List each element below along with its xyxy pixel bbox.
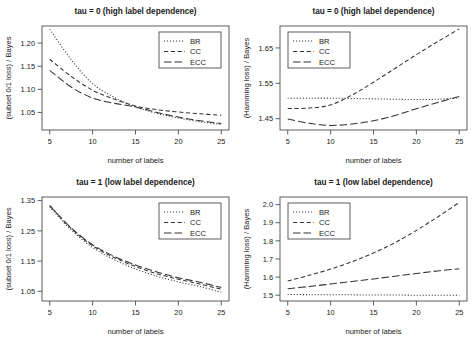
y-axis-tick-label: 1.45 xyxy=(259,114,273,123)
x-axis-tick-label: 15 xyxy=(369,137,377,146)
legend-label-ecc: ECC xyxy=(319,229,336,238)
x-axis-tick-label: 20 xyxy=(412,308,420,317)
legend-label-ecc: ECC xyxy=(319,58,336,67)
x-axis-title: number of labels xyxy=(107,156,163,165)
y-axis-tick-label: 1.7 xyxy=(263,255,273,264)
legend-label-br: BR xyxy=(319,37,330,46)
x-axis-tick-label: 10 xyxy=(88,137,96,146)
chart-panel-bottom-left: tau = 1 (low label dependence)5101520251… xyxy=(0,171,237,341)
x-axis-tick-label: 15 xyxy=(369,308,377,317)
series-line-ecc xyxy=(50,70,222,123)
y-axis-title: (Hamming loss) / Bayes xyxy=(242,38,251,119)
legend-label-cc: CC xyxy=(319,218,330,227)
y-axis-tick-label: 2.0 xyxy=(263,200,273,209)
legend-label-cc: CC xyxy=(190,218,201,227)
legend-label-ecc: ECC xyxy=(190,58,207,67)
x-axis-tick-label: 25 xyxy=(217,137,225,146)
y-axis-tick-label: 1.65 xyxy=(259,44,273,53)
legend-label-ecc: ECC xyxy=(190,229,207,238)
y-axis-tick-label: 1.25 xyxy=(21,227,35,236)
x-axis-tick-label: 15 xyxy=(131,308,139,317)
y-axis-tick-label: 1.15 xyxy=(21,257,35,266)
y-axis-tick-label: 1.10 xyxy=(21,85,35,94)
y-axis-tick-label: 1.8 xyxy=(263,237,273,246)
legend-label-cc: CC xyxy=(190,47,201,56)
chart-svg: tau = 1 (low label dependence)5101520251… xyxy=(238,171,475,341)
x-axis-title: number of labels xyxy=(345,156,401,165)
legend-label-br: BR xyxy=(190,208,201,217)
x-axis-tick-label: 10 xyxy=(326,137,334,146)
y-axis-title: (subset 0/1 loss) / Bayes xyxy=(4,36,13,119)
y-axis-tick-label: 1.35 xyxy=(21,196,35,205)
panel-title: tau = 1 (low label dependence) xyxy=(76,178,195,187)
y-axis-tick-label: 1.20 xyxy=(21,39,35,48)
x-axis-tick-label: 5 xyxy=(48,137,52,146)
legend-label-br: BR xyxy=(319,208,330,217)
chart-panel-top-left: tau = 0 (high label dependence)510152025… xyxy=(0,0,237,170)
x-axis-title: number of labels xyxy=(107,327,163,336)
x-axis-tick-label: 20 xyxy=(174,308,182,317)
series-line-br xyxy=(288,294,460,295)
chart-panel-top-right: tau = 0 (high label dependence)510152025… xyxy=(238,0,475,170)
x-axis-tick-label: 5 xyxy=(48,308,52,317)
x-axis-tick-label: 10 xyxy=(326,308,334,317)
x-axis-tick-label: 5 xyxy=(286,137,290,146)
y-axis-tick-label: 1.05 xyxy=(21,108,35,117)
chart-svg: tau = 1 (low label dependence)5101520251… xyxy=(0,171,237,341)
y-axis-tick-label: 1.05 xyxy=(21,287,35,296)
figure-container: tau = 0 (high label dependence)510152025… xyxy=(0,0,475,341)
chart-svg: tau = 0 (high label dependence)510152025… xyxy=(238,0,475,170)
series-line-ecc xyxy=(288,96,460,125)
series-line-br xyxy=(288,98,460,100)
y-axis-title: (Hamming loss) / Bayes xyxy=(242,209,251,290)
x-axis-title: number of labels xyxy=(345,327,401,336)
series-line-ecc xyxy=(288,269,460,289)
y-axis-tick-label: 1.9 xyxy=(263,218,273,227)
x-axis-tick-label: 10 xyxy=(88,308,96,317)
y-axis-tick-label: 1.5 xyxy=(263,291,273,300)
x-axis-tick-label: 20 xyxy=(174,137,182,146)
panel-title: tau = 0 (high label dependence) xyxy=(74,7,196,16)
legend-label-cc: CC xyxy=(319,47,330,56)
y-axis-tick-label: 1.55 xyxy=(259,79,273,88)
chart-svg: tau = 0 (high label dependence)510152025… xyxy=(0,0,237,170)
x-axis-tick-label: 25 xyxy=(455,308,463,317)
panel-title: tau = 0 (high label dependence) xyxy=(312,7,434,16)
y-axis-tick-label: 1.15 xyxy=(21,62,35,71)
y-axis-tick-label: 1.6 xyxy=(263,273,273,282)
x-axis-tick-label: 5 xyxy=(286,308,290,317)
x-axis-tick-label: 25 xyxy=(455,137,463,146)
panel-title: tau = 1 (low label dependence) xyxy=(314,178,433,187)
legend-label-br: BR xyxy=(190,37,201,46)
x-axis-tick-label: 15 xyxy=(131,137,139,146)
y-axis-title: (subset 0/1 loss) / Bayes xyxy=(4,207,13,290)
chart-panel-bottom-right: tau = 1 (low label dependence)5101520251… xyxy=(238,171,475,341)
x-axis-tick-label: 25 xyxy=(217,308,225,317)
x-axis-tick-label: 20 xyxy=(412,137,420,146)
